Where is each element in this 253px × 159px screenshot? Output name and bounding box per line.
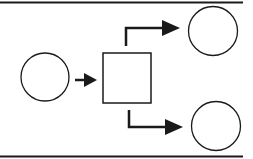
arrow-process-to-top: [126, 20, 180, 46]
arrow-process-to-bottom: [129, 110, 183, 135]
arrow-input-to-process: [75, 73, 97, 87]
output-bottom-node-circle: [192, 102, 241, 151]
flow-diagram: [0, 0, 253, 159]
input-node-circle: [21, 53, 69, 101]
output-top-node-circle: [189, 7, 238, 56]
process-node-square: [103, 53, 151, 103]
